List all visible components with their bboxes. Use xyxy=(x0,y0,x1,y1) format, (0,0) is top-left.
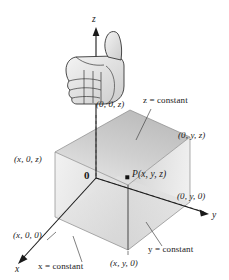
point-P-label: P(x, y, z) xyxy=(132,170,166,180)
point-P-marker xyxy=(125,175,129,179)
x-axis-label: x xyxy=(15,265,19,275)
thumbs-up-hand-icon xyxy=(66,32,124,105)
y-axis-label: y xyxy=(212,211,216,221)
vertex-x-y-0-label: (x, y, 0) xyxy=(110,259,138,268)
origin-label: 0 xyxy=(84,170,90,181)
plane-z-constant-label: z = constant xyxy=(143,96,188,105)
plane-y-constant-label: y = constant xyxy=(148,245,193,254)
z-axis-label: z xyxy=(92,15,96,25)
vertex-x-0-z-label: (x, 0, z) xyxy=(14,155,42,164)
vertex-0-y-z-label: (0, y, z) xyxy=(178,131,205,140)
vertex-0-0-z-label: (0, 0, z) xyxy=(96,100,124,109)
vertex-x-0-0-label: (x, 0, 0) xyxy=(13,231,42,240)
plane-x-constant-label: x = constant xyxy=(38,262,83,271)
vertex-0-y-0-label: (0, y, 0) xyxy=(177,192,205,201)
coordinate-box-figure: z y x 0 P(x, y, z) (0, 0, z) (0, y, z) (… xyxy=(0,0,229,280)
